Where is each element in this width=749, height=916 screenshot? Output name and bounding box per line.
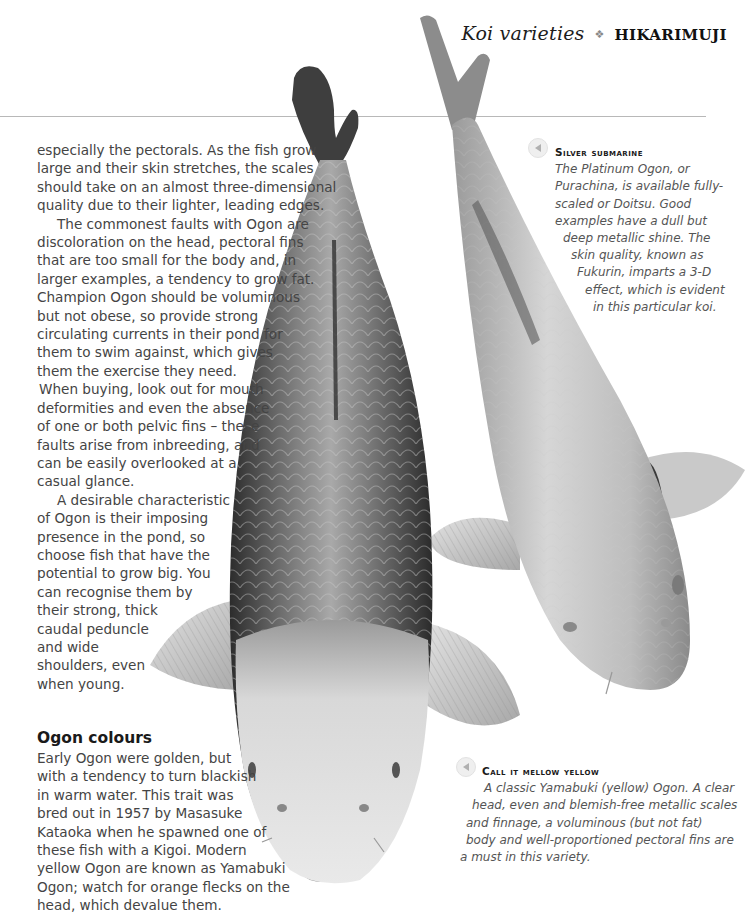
body-line: The commonest faults with Ogon are [37,215,336,233]
caption-line: Purachina, is available fully- [555,178,725,195]
caption-line: Fukurin, imparts a 3-D [555,264,725,281]
body-line: these fish with a Kigoi. Modern [37,841,290,859]
caption-line: A classic Yamabuki (yellow) Ogon. A clea… [460,780,737,797]
running-header: Koi varieties ❖ HIKARIMUJI [462,22,727,52]
caption-line: body and well-proportioned pectoral fins… [460,832,737,849]
body-line: can recognise them by [37,583,336,601]
body-line: Champion Ogon should be voluminous [37,288,336,306]
body-line: yellow Ogon are known as Yamabuki [37,859,290,877]
body-line: deformities and even the absence [37,399,336,417]
body-line: faults arise from inbreeding, and [37,436,336,454]
body-line: shoulders, even [37,656,336,674]
caption-line: in this particular koi. [555,299,725,316]
body-line: when young. [37,675,336,693]
caption-line: examples have a dull but [555,213,725,230]
body-line: Kataoka when he spawned one of [37,823,290,841]
caption-line: effect, which is evident [555,282,725,299]
body-line: large and their skin stretches, the scal… [37,159,336,177]
body-line: of one or both pelvic fins – these [37,417,336,435]
caption-title: Call it mellow yellow [460,763,737,780]
body-line: potential to grow big. You [37,564,336,582]
body-line: discoloration on the head, pectoral fins [37,233,336,251]
body-line: Early Ogon were golden, but [37,749,290,767]
header-rule [0,116,706,117]
body-line: choose fish that have the [37,546,336,564]
ogon-colours-text: Early Ogon were golden, but with a tende… [37,749,290,915]
platinum-ogon-koi-photo [420,15,745,694]
body-line: should take on an almost three-dimension… [37,178,336,196]
body-line: them to swim against, which gives [37,343,336,361]
fleuron-icon: ❖ [595,28,605,41]
body-line: them the exercise they need. [37,362,336,380]
body-line: When buying, look out for mouth [37,380,336,398]
subheading-ogon-colours: Ogon colours [37,729,152,747]
body-line: with a tendency to turn blackish [37,767,290,785]
body-line: casual glance. [37,472,336,490]
caption-silver-submarine: Silver submarine The Platinum Ogon, or P… [555,144,725,316]
caption-line: head, even and blemish-free metallic sca… [460,797,737,814]
body-line: in warm water. This trait was [37,786,290,804]
body-line: larger examples, a tendency to grow fat. [37,270,336,288]
body-line: their strong, thick [37,601,336,619]
body-line: presence in the pond, so [37,528,336,546]
caption-call-it-mellow-yellow: Call it mellow yellow A classic Yamabuki… [460,763,737,866]
section-title: Koi varieties [462,22,585,44]
body-line: but not obese, so provide strong [37,307,336,325]
caption-line: a must in this variety. [460,849,737,866]
caption-line: and finnage, a voluminous (but not fat) [460,815,737,832]
caption-line: The Platinum Ogon, or [555,161,725,178]
body-line: of Ogon is their imposing [37,509,336,527]
body-line: especially the pectorals. As the fish gr… [37,141,336,159]
body-line: and wide [37,638,336,656]
caption-line: scaled or Doitsu. Good [555,196,725,213]
body-line: bred out in 1957 by Masasuke [37,804,290,822]
caption-line: skin quality, known as [555,247,725,264]
arrow-left-icon [528,138,548,158]
caption-title: Silver submarine [555,144,725,161]
body-line: A desirable characteristic [37,491,336,509]
body-line: circulating currents in their pond for [37,325,336,343]
body-line: caudal peduncle [37,620,336,638]
body-line: that are too small for the body and, in [37,251,336,269]
body-line: quality due to their lighter, leading ed… [37,196,336,214]
body-line: head, which devalue them. [37,896,290,914]
body-line: can be easily overlooked at a [37,454,336,472]
body-line: Ogon; watch for orange flecks on the [37,878,290,896]
caption-line: deep metallic shine. The [555,230,725,247]
main-body-text: especially the pectorals. As the fish gr… [37,141,336,693]
chapter-title: HIKARIMUJI [614,26,727,44]
